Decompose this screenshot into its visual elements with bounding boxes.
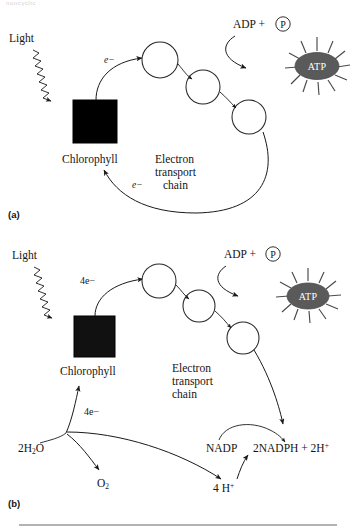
- etc-carrier-1-b: [142, 264, 176, 298]
- chlorophyll-box-b: [74, 316, 115, 357]
- electron-return-label-a: e−: [132, 180, 143, 190]
- protons-to-nadph-arrow-b: [237, 455, 248, 479]
- panel-b: Light Chlorophyll 4e− ADP + P: [8, 247, 341, 509]
- light-label-a: Light: [9, 32, 35, 45]
- svg-text:2H2O: 2H2O: [18, 442, 44, 456]
- etc-link-1-2-b: [176, 285, 189, 299]
- atp-label-b: ATP: [299, 291, 318, 302]
- water-label-b: 2H2O: [18, 442, 44, 456]
- panel-tag-a: (a): [8, 209, 20, 220]
- chlorophyll-label-b: Chlorophyll: [60, 365, 116, 378]
- etc-carrier-3-b: [227, 322, 259, 354]
- etc-carrier-2-a: [186, 70, 220, 104]
- svg-text:Electron: Electron: [172, 362, 211, 374]
- figure-root: noncyclic Light Chlorophyll e−: [0, 0, 355, 531]
- light-label-b: Light: [12, 249, 38, 262]
- svg-text:chain: chain: [163, 179, 188, 191]
- phosphate-circle-a: P: [276, 17, 290, 31]
- water-to-chlorophyll-arrow-b: [66, 386, 79, 433]
- water-to-oxygen-arrow-b: [67, 434, 99, 470]
- adp-to-atp-arrow-b: [218, 266, 238, 296]
- chlorophyll-box-a: [73, 100, 117, 143]
- light-ray-zigzag-b: [34, 267, 52, 318]
- adp-label-b: ADP +: [224, 248, 256, 260]
- phosphate-letter-a: P: [280, 19, 286, 30]
- svg-text:O2: O2: [97, 477, 109, 491]
- panel-tag-b: (b): [8, 498, 20, 509]
- water-junction-stub-b: [40, 433, 66, 443]
- svg-text:2NADPH + 2H+: 2NADPH + 2H+: [253, 441, 329, 454]
- etc-link-2-3-b: [215, 311, 231, 328]
- etc-carrier-3-a: [232, 100, 266, 134]
- etc-to-nadph-arrow-b: [254, 350, 283, 424]
- svg-text:chain: chain: [172, 388, 197, 400]
- adp-label-a: ADP +: [233, 18, 265, 30]
- electron-excite-arrow-a: [96, 58, 142, 100]
- water-to-protons-arrow-b: [67, 432, 221, 479]
- atp-burst-b: ATP: [276, 268, 341, 323]
- oxygen-label-b: O2: [97, 477, 109, 491]
- phosphate-circle-b: P: [266, 247, 280, 261]
- electron-excite-arrow-b: [95, 279, 143, 316]
- phosphate-letter-b: P: [270, 249, 276, 260]
- protons-label-b: 4 H+: [213, 481, 234, 494]
- svg-text:4 H+: 4 H+: [213, 481, 234, 494]
- etc-label-a: Electron transport chain: [155, 153, 197, 191]
- adp-to-atp-arrow-a: [226, 36, 246, 68]
- nadph-label-b: 2NADPH + 2H+: [253, 441, 329, 454]
- panel-a: Light Chlorophyll e− ADP +: [8, 17, 350, 220]
- electron-label-b: 4e−: [80, 275, 95, 286]
- chlorophyll-label-a: Chlorophyll: [62, 153, 118, 166]
- svg-text:transport: transport: [172, 375, 214, 388]
- electron-water-label-b: 4e−: [84, 406, 99, 417]
- etc-label-b: Electron transport chain: [172, 362, 214, 400]
- etc-carrier-2-b: [183, 290, 215, 322]
- etc-link-2-3-a: [220, 92, 236, 108]
- nadp-arc-b: [219, 425, 270, 440]
- svg-text:Electron: Electron: [155, 153, 194, 165]
- atp-burst-a: ATP: [285, 37, 350, 95]
- svg-text:transport: transport: [155, 166, 197, 179]
- light-ray-zigzag-a: [33, 50, 51, 101]
- nadp-arc-head-b: [270, 430, 285, 442]
- photophosphorylation-diagram: Light Chlorophyll e− ADP +: [0, 0, 355, 531]
- electron-label-a: e−: [104, 55, 115, 65]
- nadp-label-b: NADP: [206, 442, 237, 454]
- etc-carrier-1-a: [142, 42, 178, 78]
- atp-label-a: ATP: [308, 61, 327, 72]
